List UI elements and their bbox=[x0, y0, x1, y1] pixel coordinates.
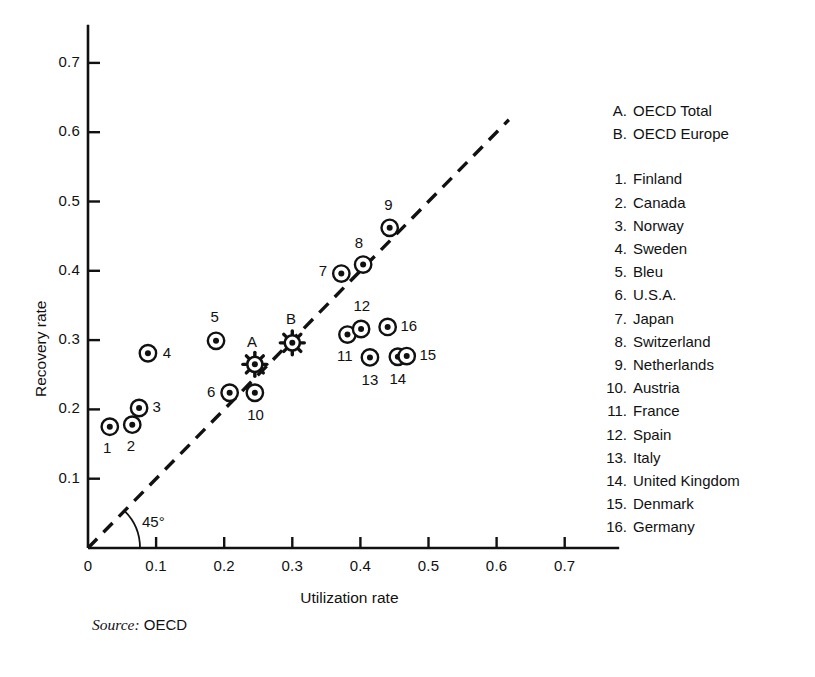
legend-item-name: Italy bbox=[633, 446, 812, 469]
legend-item-16: 16.Germany bbox=[597, 515, 812, 538]
x-tick-label-3: 0.3 bbox=[267, 557, 317, 574]
legend-item-12: 12.Spain bbox=[597, 423, 812, 446]
legend-item-name: Finland bbox=[633, 167, 812, 190]
y-tick-label-1: 0.2 bbox=[32, 399, 80, 416]
legend-item-name: Japan bbox=[633, 307, 812, 330]
legend-item-13: 13.Italy bbox=[597, 446, 812, 469]
legend-item-8: 8.Switzerland bbox=[597, 330, 812, 353]
point-label-12: 12 bbox=[346, 297, 378, 314]
point-label-8: 8 bbox=[343, 234, 375, 251]
legend-item-key: 3. bbox=[597, 214, 633, 237]
point-label-B: B bbox=[275, 310, 307, 327]
point-label-15: 15 bbox=[412, 346, 444, 363]
data-point-9[interactable] bbox=[381, 220, 397, 236]
legend-item-4: 4.Sweden bbox=[597, 237, 812, 260]
legend-item-5: 5.Bleu bbox=[597, 260, 812, 283]
marker-dot-7 bbox=[338, 271, 344, 277]
marker-dot-5 bbox=[213, 338, 219, 344]
point-label-14: 14 bbox=[382, 370, 414, 387]
legend-item-key: 9. bbox=[597, 353, 633, 376]
point-label-4: 4 bbox=[151, 344, 183, 361]
data-point-8[interactable] bbox=[355, 256, 371, 272]
legend-item-key: 5. bbox=[597, 260, 633, 283]
legend-item-name: OECD Europe bbox=[633, 122, 812, 145]
source-label: Source: bbox=[92, 616, 140, 633]
x-tick-label-0: 0 bbox=[63, 557, 113, 574]
legend-item-name: France bbox=[633, 399, 812, 422]
legend-item-name: Canada bbox=[633, 191, 812, 214]
data-point-13[interactable] bbox=[362, 349, 378, 365]
marker-dot-B bbox=[289, 340, 295, 346]
legend-item-name: Denmark bbox=[633, 492, 812, 515]
legend-item-B: B.OECD Europe bbox=[597, 122, 812, 145]
marker-dot-8 bbox=[360, 262, 366, 268]
data-point-12[interactable] bbox=[353, 321, 369, 337]
legend-item-name: Netherlands bbox=[633, 353, 812, 376]
legend-item-key: A. bbox=[597, 99, 633, 122]
legend-item-key: 8. bbox=[597, 330, 633, 353]
y-axis-title: Recovery rate bbox=[32, 301, 50, 397]
legend-item-A: A.OECD Total bbox=[597, 99, 812, 122]
marker-dot-12 bbox=[358, 326, 364, 332]
data-point-B[interactable] bbox=[280, 331, 304, 355]
legend-item-6: 6.U.S.A. bbox=[597, 283, 812, 306]
legend-item-10: 10.Austria bbox=[597, 376, 812, 399]
x-axis-title: Utilization rate bbox=[300, 589, 398, 607]
data-point-2[interactable] bbox=[124, 416, 140, 432]
legend-item-key: 12. bbox=[597, 423, 633, 446]
angle-annotation-label: 45° bbox=[142, 513, 165, 530]
point-label-3: 3 bbox=[141, 398, 173, 415]
y-tick-label-3: 0.4 bbox=[32, 261, 80, 278]
y-tick-label-5: 0.6 bbox=[32, 122, 80, 139]
point-label-2: 2 bbox=[115, 437, 147, 454]
axes-group bbox=[88, 25, 619, 548]
marker-dot-13 bbox=[367, 354, 373, 360]
x-tick-label-4: 0.4 bbox=[335, 557, 385, 574]
legend-item-key: B. bbox=[597, 122, 633, 145]
figure-container: 00.10.20.30.40.50.60.70.10.20.30.40.50.6… bbox=[0, 0, 815, 677]
point-label-A: A bbox=[236, 333, 268, 350]
source-note: Source: OECD bbox=[92, 616, 187, 634]
legend-item-key: 14. bbox=[597, 469, 633, 492]
marker-dot-A bbox=[252, 361, 258, 367]
point-label-5: 5 bbox=[199, 308, 231, 325]
legend-item-key: 6. bbox=[597, 283, 633, 306]
legend-item-7: 7.Japan bbox=[597, 307, 812, 330]
marker-dot-15 bbox=[404, 353, 410, 359]
point-label-10: 10 bbox=[240, 406, 272, 423]
legend-item-name: Sweden bbox=[633, 237, 812, 260]
x-tick-label-7: 0.7 bbox=[540, 557, 590, 574]
data-point-A[interactable] bbox=[243, 352, 267, 376]
legend-item-name: Germany bbox=[633, 515, 812, 538]
y-tick-label-0: 0.1 bbox=[32, 469, 80, 486]
data-point-1[interactable] bbox=[102, 419, 118, 435]
legend-item-name: U.S.A. bbox=[633, 283, 812, 306]
legend-item-1: 1.Finland bbox=[597, 167, 812, 190]
legend-item-9: 9.Netherlands bbox=[597, 353, 812, 376]
data-point-5[interactable] bbox=[208, 333, 224, 349]
x-tick-label-2: 0.2 bbox=[199, 557, 249, 574]
legend-item-name: United Kingdom bbox=[633, 469, 812, 492]
marker-dot-2 bbox=[129, 422, 135, 428]
y-tick-label-6: 0.7 bbox=[32, 53, 80, 70]
legend-item-key: 16. bbox=[597, 515, 633, 538]
reference-line-group bbox=[88, 120, 509, 548]
legend-item-name: Switzerland bbox=[633, 330, 812, 353]
legend-item-key: 4. bbox=[597, 237, 633, 260]
legend-item-key: 10. bbox=[597, 376, 633, 399]
data-point-10[interactable] bbox=[247, 385, 263, 401]
legend-item-key: 15. bbox=[597, 492, 633, 515]
legend-item-name: Austria bbox=[633, 376, 812, 399]
marker-dot-16 bbox=[385, 324, 391, 330]
point-label-16: 16 bbox=[393, 317, 425, 334]
legend-item-key: 13. bbox=[597, 446, 633, 469]
legend-item-14: 14.United Kingdom bbox=[597, 469, 812, 492]
point-label-6: 6 bbox=[195, 383, 227, 400]
marker-dot-6 bbox=[227, 390, 233, 396]
legend-item-key: 1. bbox=[597, 167, 633, 190]
point-label-7: 7 bbox=[307, 262, 339, 279]
legend-item-name: Spain bbox=[633, 423, 812, 446]
x-tick-label-5: 0.5 bbox=[404, 557, 454, 574]
legend-item-15: 15.Denmark bbox=[597, 492, 812, 515]
y-tick-label-4: 0.5 bbox=[32, 192, 80, 209]
